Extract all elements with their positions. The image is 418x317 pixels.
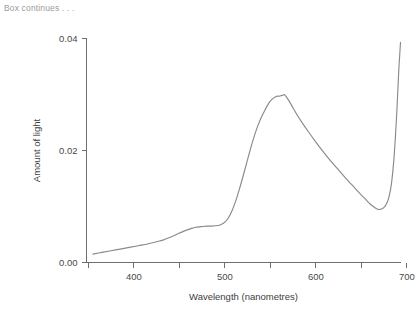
x-tick-label: 600 [308,271,324,282]
x-axis-title: Wavelength (nanometres) [189,291,298,302]
figure-root: Box continues . . . 400500600700 0.000.0… [0,0,418,317]
x-tick-label: 400 [126,271,142,282]
x-axis-ticks: 400500600700 [88,263,414,282]
chart-series [93,42,401,254]
y-tick-label: 0.02 [59,145,78,156]
x-tick-label: 700 [399,271,415,282]
light-spectrum-curve [93,42,401,254]
chart-axes [87,39,401,263]
y-axis-ticks: 0.000.020.04 [59,33,87,268]
y-axis-title: Amount of light [31,118,42,182]
spectrum-chart: 400500600700 0.000.020.04 Wavelength (na… [0,0,418,317]
y-tick-label: 0.04 [59,33,78,44]
y-tick-label: 0.00 [59,257,78,268]
x-tick-label: 500 [217,271,233,282]
